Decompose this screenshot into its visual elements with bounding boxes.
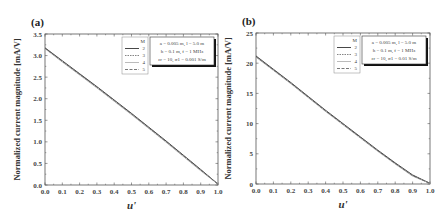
x-axis-label: u' — [338, 198, 347, 210]
panel-label: (b) — [242, 15, 256, 28]
y-tick-label: 2.0 — [33, 95, 42, 103]
x-tick-label: 0.6 — [356, 187, 365, 195]
y-axis-label: Normalized current magnitude [mA/V] — [223, 37, 233, 179]
y-tick-label: 3.5 — [33, 31, 42, 39]
x-tick-label: 0.9 — [196, 188, 205, 196]
x-tick-label: 0.8 — [391, 187, 400, 195]
x-tick-label: 1.0 — [426, 187, 435, 195]
x-tick-label: 1.0 — [214, 188, 223, 196]
legend-title: M — [353, 38, 358, 43]
y-tick-label: 3.0 — [33, 52, 42, 60]
x-tick-label: 0.2 — [75, 188, 84, 196]
y-tick-label: 0.5 — [33, 160, 42, 168]
x-tick-label: 0.3 — [93, 188, 102, 196]
x-tick-label: 0.2 — [286, 187, 295, 195]
y-tick-label: 5 — [250, 150, 254, 158]
chart-b-svg: (b)0.00.10.20.30.40.50.60.70.80.91.00510… — [223, 0, 446, 221]
x-tick-label: 0.7 — [162, 188, 171, 196]
y-tick-label: 0.0 — [33, 182, 42, 190]
x-tick-label: 0.3 — [304, 187, 313, 195]
x-tick-label: 0.6 — [144, 188, 153, 196]
x-axis-label: u' — [127, 199, 136, 211]
x-tick-label: 0.1 — [269, 187, 278, 195]
x-tick-label: 0.5 — [339, 187, 348, 195]
y-axis-label: Normalized current magnitude [mA/V] — [12, 38, 22, 180]
x-tick-label: 0.7 — [373, 187, 382, 195]
chart-panel-a: (a)0.00.10.20.30.40.50.60.70.80.91.00.00… — [0, 0, 223, 221]
y-tick-label: 1.0 — [33, 138, 42, 146]
legend-title: M — [141, 39, 146, 44]
chart-panel-b: (b)0.00.10.20.30.40.50.60.70.80.91.00510… — [223, 0, 446, 221]
x-tick-label: 0.4 — [110, 188, 119, 196]
panel-label: (a) — [31, 16, 44, 29]
x-tick-label: 0.0 — [252, 187, 261, 195]
x-tick-label: 0.1 — [58, 188, 67, 196]
series-line-M2 — [256, 56, 430, 183]
y-tick-label: 25 — [246, 30, 254, 38]
y-tick-label: 15 — [246, 90, 254, 98]
x-tick-label: 0.9 — [408, 187, 417, 195]
y-tick-label: 0 — [250, 181, 254, 189]
chart-a-svg: (a)0.00.10.20.30.40.50.60.70.80.91.00.00… — [0, 0, 223, 221]
x-tick-label: 0.0 — [41, 188, 50, 196]
y-tick-label: 1.5 — [33, 117, 42, 125]
y-tick-label: 20 — [246, 60, 254, 68]
x-tick-label: 0.4 — [321, 187, 330, 195]
y-tick-label: 10 — [246, 120, 254, 128]
x-tick-label: 0.5 — [127, 188, 136, 196]
y-tick-label: 2.5 — [33, 74, 42, 82]
x-tick-label: 0.8 — [179, 188, 188, 196]
